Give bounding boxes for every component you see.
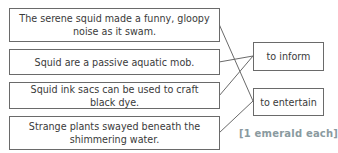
statement-box-1[interactable]: The serene squid made a funny, gloopy no… bbox=[9, 8, 220, 42]
purpose-text: to inform bbox=[267, 50, 311, 63]
purpose-box-entertain[interactable]: to entertain bbox=[253, 88, 324, 116]
statement-box-3[interactable]: Squid ink sacs can be used to craft blac… bbox=[9, 82, 220, 109]
statement-box-4[interactable]: Strange plants swayed beneath the shimme… bbox=[9, 116, 220, 150]
statement-text: Strange plants swayed beneath the shimme… bbox=[10, 120, 219, 146]
statement-text: Squid are a passive aquatic mob. bbox=[35, 56, 195, 69]
purpose-text: to entertain bbox=[260, 96, 317, 109]
purpose-box-inform[interactable]: to inform bbox=[253, 42, 324, 71]
marks-label: [1 emerald each] bbox=[239, 128, 338, 139]
statement-text: The serene squid made a funny, gloopy no… bbox=[10, 12, 219, 38]
statement-box-2[interactable]: Squid are a passive aquatic mob. bbox=[9, 49, 220, 75]
line-statement-2-to-inform bbox=[219, 56, 253, 62]
statement-text: Squid ink sacs can be used to craft blac… bbox=[10, 83, 219, 109]
